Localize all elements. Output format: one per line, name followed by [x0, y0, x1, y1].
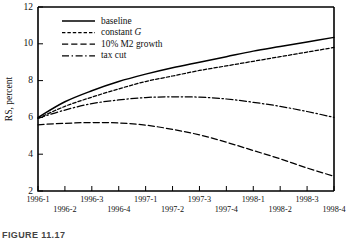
x-tick-label: 1997-1	[134, 195, 157, 204]
line-chart: 24681012 RS, percent 1996-11996-21996-31…	[0, 0, 346, 239]
y-tick-label: 8	[28, 75, 33, 85]
x-tick-label: 1996-1	[26, 195, 49, 204]
y-tick-label: 12	[24, 2, 34, 12]
figure-container: 24681012 RS, percent 1996-11996-21996-31…	[0, 0, 346, 239]
y-tick-label: 10	[24, 38, 34, 48]
legend-label-10-m2-growth: 10% M2 growth	[101, 39, 163, 49]
series-line-tax-cut	[38, 97, 334, 119]
legend-label-baseline: baseline	[101, 16, 132, 26]
x-tick-label: 1998-1	[242, 195, 265, 204]
y-axis: 24681012	[24, 2, 44, 196]
x-tick-label: 1997-2	[161, 205, 184, 214]
y-tick-label: 4	[28, 149, 33, 159]
y-tick-label: 6	[28, 112, 33, 122]
x-tick-label: 1996-4	[107, 205, 130, 214]
legend-label-tax-cut: tax cut	[101, 50, 127, 60]
x-tick-label: 1996-2	[53, 205, 76, 214]
x-tick-label: 1997-3	[188, 195, 211, 204]
x-tick-label: 1997-4	[215, 205, 238, 214]
x-tick-label: 1996-3	[80, 195, 103, 204]
x-tick-label: 1998-2	[269, 205, 292, 214]
x-tick-label: 1998-4	[322, 205, 345, 214]
legend-label-constant-g: constant G	[101, 27, 142, 37]
y-axis-label: RS, percent	[4, 76, 14, 121]
series-line-10-m2-growth	[38, 123, 334, 177]
data-series-group	[38, 37, 334, 176]
x-tick-label: 1998-3	[295, 195, 318, 204]
chart-legend: baselineconstant G10% M2 growthtax cut	[62, 16, 163, 61]
plot-frame	[38, 7, 334, 191]
figure-caption: FIGURE 11.17	[2, 230, 65, 239]
